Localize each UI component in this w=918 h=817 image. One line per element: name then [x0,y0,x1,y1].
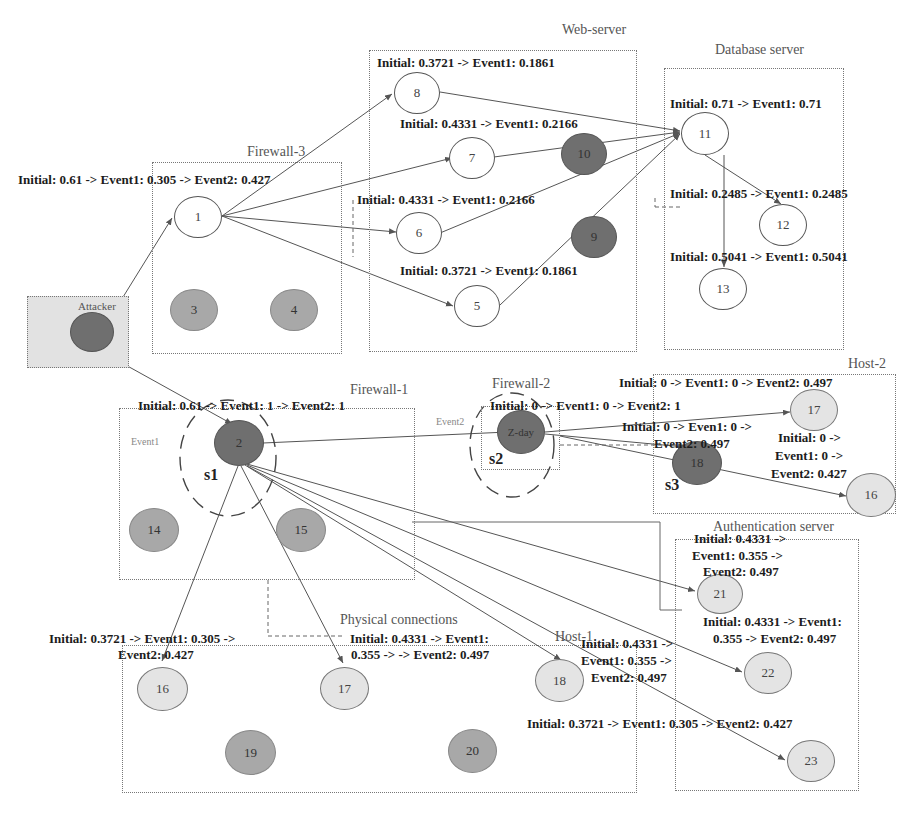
label-node-22-line1: Initial: 0.4331 -> Event1: [703,614,842,630]
zone-title-web-server: Web-server [562,22,626,38]
node-20[interactable]: 20 [448,729,497,773]
node-13[interactable]: 13 [699,268,747,310]
label-host1-18-line2: Event1: 0.355 -> [581,653,672,669]
node-21[interactable]: 21 [697,574,743,614]
label-host2-18-line1: Initial: 0 -> Even1: 0 -> [622,419,752,435]
state-s3: s3 [665,476,679,494]
node-11[interactable]: 11 [681,112,729,155]
node-19[interactable]: 19 [225,730,276,775]
label-host1-17-line1: Initial: 0.4331 -> Event1: [350,631,489,647]
label-node-6: Initial: 0.4331 -> Event1: 0.2166 [357,192,535,208]
node-zero-day[interactable]: Z-day [497,410,545,454]
zone-title-firewall3: Firewall-3 [247,144,305,160]
node-10[interactable]: 10 [561,133,607,175]
label-node-21-line3: Event2: 0.497 [703,564,779,580]
node-12[interactable]: 12 [759,204,807,246]
node-host1-16[interactable]: 16 [137,667,188,711]
node-host2-16[interactable]: 16 [846,473,896,517]
node-5[interactable]: 5 [454,285,500,327]
label-node-2: Initial: 0.61 -> Event1: 1 -> Event2: 1 [138,398,345,414]
node-6[interactable]: 6 [396,212,442,254]
node-host1-17[interactable]: 17 [320,667,369,710]
zone-firewall1 [119,408,415,580]
label-node-8: Initial: 0.3721 -> Event1: 0.1861 [377,55,555,71]
node-7[interactable]: 7 [449,137,495,179]
zone-title-physical-connections: Physical connections [340,612,458,628]
node-22[interactable]: 22 [744,652,792,694]
label-node-12: Initial: 0.2485 -> Event1: 0.2485 [670,186,848,202]
node-4[interactable]: 4 [270,289,318,331]
state-s1: s1 [204,466,218,484]
zone-title-host2: Host-2 [848,356,886,372]
label-node-22-line2: 0.355 -> Event2: 0.497 [713,631,836,647]
label-node-7: Initial: 0.4331 -> Event1: 0.2166 [400,116,578,132]
node-8[interactable]: 8 [394,72,440,114]
event2-marker: Event2 [436,416,464,427]
label-node-1: Initial: 0.61 -> Event1: 0.305 -> Event2… [18,172,270,188]
node-2[interactable]: 2 [214,420,264,466]
label-host2-17: Initial: 0 -> Event1: 0 -> Event2: 0.497 [619,375,832,391]
label-node-5: Initial: 0.3721 -> Event1: 0.1861 [400,263,578,279]
label-host1-16-line2: Event2: 0.427 [118,647,194,663]
node-23[interactable]: 23 [787,740,835,782]
zone-title-database-server: Database server [715,42,804,58]
label-node-13: Initial: 0.5041 -> Event1: 0.5041 [670,249,848,265]
label-node-23: Initial: 0.3721 -> Event1: 0.305 -> Even… [527,716,792,732]
event1-marker: Event1 [131,436,159,447]
label-node-21-line2: Event1: 0.355 -> [692,548,783,564]
attacker-node[interactable] [70,312,114,352]
label-host2-16-line3: Event2: 0.427 [771,466,847,482]
label-node-11: Initial: 0.71 -> Event1: 0.71 [670,96,822,112]
attacker-label: Attacker [78,300,116,312]
label-host2-16-line1: Initial: 0 -> [778,430,841,446]
node-host2-17[interactable]: 17 [790,389,838,431]
label-host1-17-line2: 0.355 -> -> Event2: 0.497 [351,647,489,663]
label-host1-16-line1: Initial: 0.3721 -> Event1: 0.305 -> [49,631,235,647]
label-host1-18-line1: Initial: 0.4331 -> [581,636,673,652]
label-node-21-line1: Initial: 0.4331 -> [694,531,786,547]
node-3[interactable]: 3 [170,289,218,331]
node-15[interactable]: 15 [276,508,326,552]
node-14[interactable]: 14 [129,508,179,552]
state-s2: s2 [489,450,503,468]
zone-title-firewall2: Firewall-2 [492,376,550,392]
label-zero-day: Initial: 0 -> Event1: 0 -> Event2: 1 [490,398,681,414]
label-host1-18-line3: Event2: 0.497 [591,670,667,686]
label-host2-16-line2: Event1: 0 -> [775,448,843,464]
zone-title-firewall1: Firewall-1 [350,382,408,398]
label-host2-18-line2: Event2: 0.497 [654,436,730,452]
node-host1-18[interactable]: 18 [535,659,584,702]
node-1[interactable]: 1 [174,196,222,238]
node-9[interactable]: 9 [571,216,617,258]
